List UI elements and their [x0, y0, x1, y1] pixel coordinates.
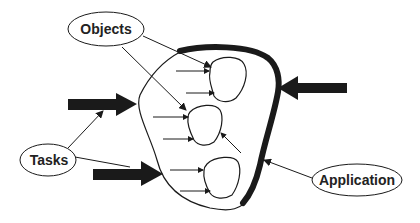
- application-pointer: [264, 160, 312, 178]
- objects-pointer-top: [143, 36, 211, 67]
- objects-label-node: Objects: [68, 12, 144, 46]
- inner-object-top: [209, 57, 246, 101]
- inner-object-bottom: [204, 157, 240, 198]
- application-label: Application: [319, 172, 395, 188]
- thick-arrow-lower-left: [93, 161, 163, 186]
- objects-pointer-middle: [122, 47, 186, 110]
- thick-arrow-right: [278, 76, 347, 100]
- tasks-pointer-upper: [68, 111, 103, 148]
- tasks-pointer-lower: [75, 157, 130, 167]
- thick-arrow-upper-left: [68, 93, 137, 116]
- application-label-node: Application: [312, 164, 402, 196]
- application-diagram: Objects Tasks Application: [0, 0, 420, 223]
- tasks-label-node: Tasks: [20, 144, 76, 176]
- tasks-label: Tasks: [30, 152, 69, 168]
- objects-label: Objects: [80, 21, 132, 37]
